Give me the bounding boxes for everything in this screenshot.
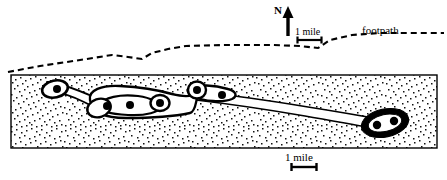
node-dot — [373, 121, 381, 129]
footpath-line — [8, 33, 444, 72]
node-dot — [218, 91, 226, 99]
node-dot — [156, 99, 164, 107]
node-dot — [103, 102, 111, 110]
scale-bar-bottom — [291, 163, 317, 171]
figure-root: N 1 mile footpath 1 mile — [0, 0, 447, 180]
north-label: N — [274, 5, 282, 16]
north-arrow — [283, 6, 294, 36]
scale-bar-top — [297, 37, 322, 44]
node-dot — [126, 101, 134, 109]
node-dot — [193, 86, 201, 94]
node-dot — [53, 85, 61, 93]
scale-bar-bottom-label: 1 mile — [285, 152, 313, 163]
footpath-label: footpath — [362, 25, 399, 36]
node-dot — [390, 117, 398, 125]
scale-bar-top-label: 1 mile — [295, 27, 320, 37]
